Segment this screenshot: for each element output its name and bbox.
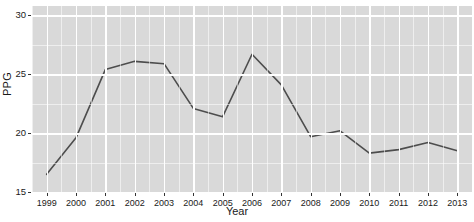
gridline-vertical-minor	[325, 6, 326, 192]
gridline-vertical-minor	[32, 6, 33, 192]
gridline-vertical-major	[223, 6, 224, 192]
x-tick-mark	[281, 193, 282, 196]
gridline-vertical-major	[457, 6, 458, 192]
gridline-vertical-major	[399, 6, 400, 192]
y-tick-label: 30	[0, 9, 26, 20]
line-chart: PPG Year 15202530 1999200020012002200320…	[0, 0, 474, 222]
x-tick-mark	[76, 193, 77, 196]
gridline-vertical-minor	[413, 6, 414, 192]
x-tick-mark	[105, 193, 106, 196]
x-tick-mark	[311, 193, 312, 196]
gridline-vertical-minor	[443, 6, 444, 192]
x-tick-mark	[223, 193, 224, 196]
gridline-vertical-major	[105, 6, 106, 192]
y-tick-mark	[28, 133, 31, 134]
x-tick-label: 2013	[437, 198, 474, 208]
gridline-vertical-minor	[120, 6, 121, 192]
y-tick-label: 20	[0, 127, 26, 138]
plot-panel	[32, 6, 472, 192]
gridline-vertical-major	[193, 6, 194, 192]
x-tick-mark	[399, 193, 400, 196]
gridline-vertical-minor	[179, 6, 180, 192]
x-tick-mark	[164, 193, 165, 196]
gridline-vertical-major	[135, 6, 136, 192]
x-tick-mark	[457, 193, 458, 196]
x-tick-mark	[428, 193, 429, 196]
gridline-vertical-major	[76, 6, 77, 192]
y-tick-mark	[28, 74, 31, 75]
gridline-vertical-major	[281, 6, 282, 192]
gridline-vertical-major	[47, 6, 48, 192]
gridline-vertical-minor	[384, 6, 385, 192]
gridline-vertical-major	[311, 6, 312, 192]
x-tick-mark	[340, 193, 341, 196]
gridline-vertical-major	[428, 6, 429, 192]
x-tick-mark	[135, 193, 136, 196]
gridline-vertical-major	[369, 6, 370, 192]
gridline-vertical-major	[252, 6, 253, 192]
gridline-vertical-minor	[61, 6, 62, 192]
x-tick-mark	[252, 193, 253, 196]
gridline-vertical-minor	[91, 6, 92, 192]
gridline-vertical-minor	[149, 6, 150, 192]
gridline-vertical-minor	[296, 6, 297, 192]
y-tick-mark	[28, 15, 31, 16]
y-tick-mark	[28, 192, 31, 193]
y-tick-label: 25	[0, 68, 26, 79]
x-tick-mark	[47, 193, 48, 196]
gridline-vertical-major	[340, 6, 341, 192]
gridline-vertical-major	[164, 6, 165, 192]
y-tick-label: 15	[0, 186, 26, 197]
gridline-vertical-minor	[237, 6, 238, 192]
x-tick-mark	[193, 193, 194, 196]
gridline-vertical-minor	[208, 6, 209, 192]
x-tick-mark	[369, 193, 370, 196]
gridline-vertical-minor	[267, 6, 268, 192]
gridline-vertical-minor	[355, 6, 356, 192]
